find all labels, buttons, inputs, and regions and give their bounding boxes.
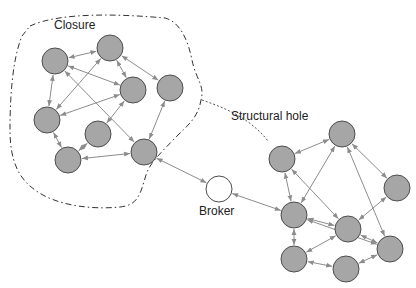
edge-F-G <box>79 143 88 151</box>
node-J <box>329 121 355 147</box>
node-A <box>42 48 68 74</box>
network-diagram <box>0 0 416 288</box>
node-B <box>97 35 123 61</box>
broker-node <box>206 176 232 202</box>
edge-J-K <box>352 144 387 178</box>
node-N <box>377 236 403 262</box>
node-E <box>34 107 60 133</box>
node-O <box>281 246 307 272</box>
node-L <box>281 202 307 228</box>
node-K <box>384 175 410 201</box>
edge-B-D <box>122 56 159 80</box>
edge-C-F <box>107 101 125 123</box>
node-H <box>131 139 157 165</box>
node-G <box>55 147 81 173</box>
node-P <box>333 256 359 282</box>
edge-I-L <box>285 173 291 202</box>
nodes-layer <box>34 35 410 282</box>
edge-J-L <box>301 146 335 203</box>
node-F <box>85 121 111 147</box>
broker-label: Broker <box>199 204 234 218</box>
node-C <box>120 77 146 103</box>
edge-A-B <box>69 51 97 58</box>
edge-D-H <box>149 101 164 139</box>
edge-Broker-L <box>232 194 281 211</box>
node-M <box>335 216 361 242</box>
edge-E-G <box>54 132 62 147</box>
edge-O-P <box>308 262 333 267</box>
edge-A-E <box>49 75 53 106</box>
node-I <box>269 146 295 172</box>
node-D <box>157 75 183 101</box>
structural-hole-label: Structural hole <box>231 109 308 123</box>
edge-K-M <box>359 197 387 220</box>
edge-H-Broker <box>157 158 207 183</box>
edge-B-C <box>117 60 127 77</box>
closure-label: Closure <box>54 18 95 32</box>
edge-G-H <box>82 153 130 158</box>
edge-I-J <box>295 139 329 153</box>
edge-C-E <box>60 95 120 116</box>
edge-P-N <box>359 255 378 263</box>
edge-M-O <box>306 236 336 252</box>
